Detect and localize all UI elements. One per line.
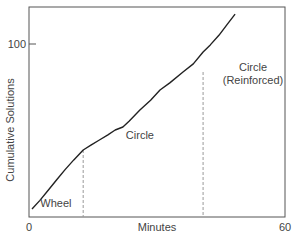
- y-tick-label: 100: [8, 38, 26, 50]
- x-axis-label: Minutes: [138, 221, 177, 233]
- plot-frame: [29, 7, 285, 217]
- region-label: Circle: [126, 129, 154, 141]
- region-label: Circle: [239, 61, 267, 73]
- y-axis-label: Cumulative Solutions: [4, 78, 16, 182]
- region-label: Wheel: [40, 197, 71, 209]
- region-label: (Reinforced): [223, 74, 284, 86]
- x-tick-label: 60: [279, 221, 291, 233]
- line-chart: 100 060 Minutes Cumulative Solutions Whe…: [0, 0, 297, 244]
- x-tick-label: 0: [26, 221, 32, 233]
- series-line: [32, 14, 235, 209]
